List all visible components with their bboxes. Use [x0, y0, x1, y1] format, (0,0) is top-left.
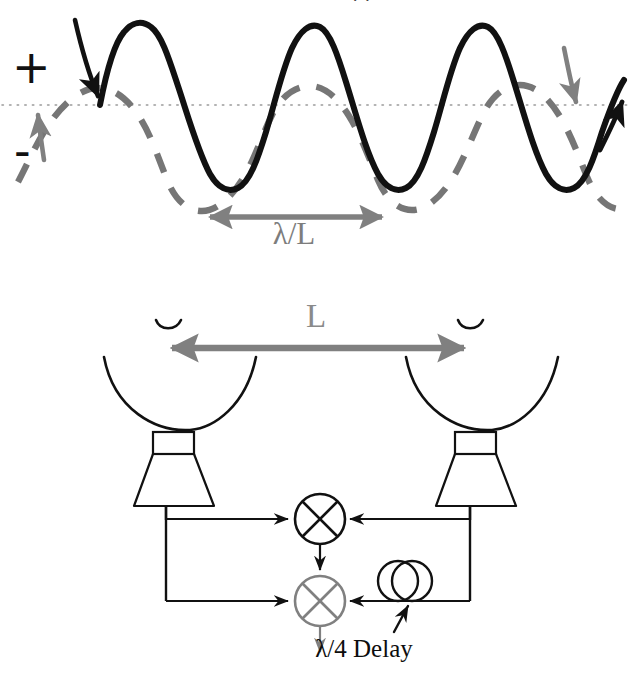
antenna-left-dish	[104, 357, 256, 430]
axis-minus-label: -	[14, 128, 31, 174]
delay-callout-arrow	[394, 606, 408, 632]
dashed-wave-arrow-right	[564, 48, 576, 102]
figure-root: ·· + - λ/L L λ/4 Delay	[0, 0, 633, 676]
solid-wave-arrow-left	[75, 20, 98, 96]
clipped-top-text: ··	[352, 0, 377, 9]
diagram-canvas	[0, 0, 633, 676]
in-phase-fringe-curve	[100, 23, 624, 190]
antenna-right-subreflector	[458, 320, 483, 328]
antenna-left-horn	[134, 454, 214, 506]
antenna-left-neck	[153, 432, 194, 454]
antenna-right-dish	[406, 357, 558, 430]
antenna-right-neck	[455, 432, 496, 454]
baseline-length-label: L	[306, 300, 326, 333]
quarter-wave-delay-label: λ/4 Delay	[315, 636, 413, 661]
antenna-right-horn	[436, 454, 516, 506]
lambda-over-l-label: λ/L	[273, 218, 316, 249]
antenna-left-subreflector	[156, 320, 181, 328]
axis-plus-label: +	[12, 44, 51, 90]
quadrature-fringe-curve	[18, 85, 620, 211]
